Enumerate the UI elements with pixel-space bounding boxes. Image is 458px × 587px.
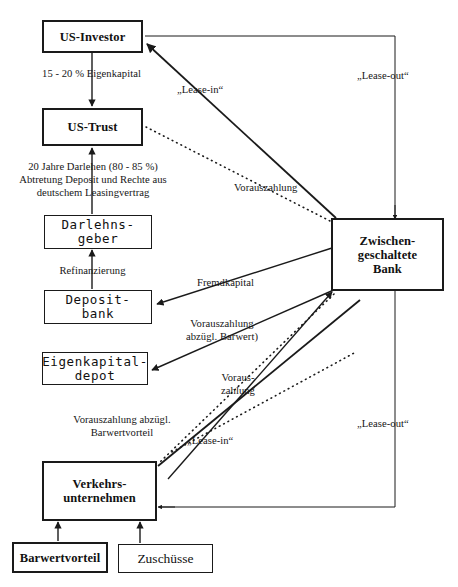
edge-label-vorauszahlung-abzugl-barwert: Vorauszahlungabzügl. Barwert) bbox=[166, 318, 278, 344]
node-zuschuesse[interactable]: Zuschüsse bbox=[118, 544, 213, 573]
edge-label-refinanzierung: Refinanzierung bbox=[44, 265, 141, 278]
node-us-trust[interactable]: US-Trust bbox=[42, 108, 143, 146]
node-us-trust-label: US-Trust bbox=[66, 120, 120, 134]
edge-label-voraus-zahlung: Voraus-zahlung bbox=[207, 372, 269, 398]
node-verkehrsunternehmen-label: Verkehrs-unternehmen bbox=[61, 477, 138, 505]
edge-label-darlehen-terms: 20 Jahre Darlehen (80 - 85 %)Abtretung D… bbox=[3, 160, 183, 200]
edge-label-vorauszahlung-top: Vorauszahlung bbox=[234, 182, 324, 195]
node-depositbank-label: Deposit-bank bbox=[63, 293, 132, 321]
node-eigenkapitaldepot-label: Eigenkapital-depot bbox=[40, 355, 150, 383]
node-depositbank[interactable]: Deposit-bank bbox=[44, 290, 152, 324]
edge-label-vorauszahlung-abzugl-barwertvorteil: Vorauszahlung abzügl.Barwertvorteil bbox=[52, 414, 192, 440]
node-eigenkapitaldepot[interactable]: Eigenkapital-depot bbox=[42, 352, 148, 385]
diagram-canvas: US-Investor US-Trust Darlehns-geber Depo… bbox=[0, 0, 458, 587]
edge-label-lease-out-top: „Lease-out“ bbox=[357, 70, 429, 83]
node-barwertvorteil-label: Barwertvorteil bbox=[18, 551, 103, 565]
node-verkehrsunternehmen[interactable]: Verkehrs-unternehmen bbox=[42, 461, 157, 521]
edge-bank-to-depositbank bbox=[157, 248, 332, 304]
edge-label-eigenkapital-pct: 15 - 20 % Eigenkapital bbox=[14, 68, 169, 81]
node-zwischengeschaltete-bank[interactable]: Zwischen-geschalteteBank bbox=[331, 218, 444, 291]
edge-label-fremdkapital: Fremdkapital bbox=[197, 277, 277, 290]
node-zwischengeschaltete-bank-label: Zwischen-geschalteteBank bbox=[356, 234, 419, 276]
node-us-investor-label: US-Investor bbox=[58, 30, 128, 44]
node-darlehnsgeber[interactable]: Darlehns-geber bbox=[44, 215, 152, 249]
node-zuschuesse-label: Zuschüsse bbox=[135, 551, 195, 566]
edge-label-lease-out-bottom: „Lease-out“ bbox=[357, 418, 429, 431]
node-barwertvorteil[interactable]: Barwertvorteil bbox=[12, 542, 108, 573]
edge-label-lease-in-bottom: „Lease-in“ bbox=[187, 435, 259, 448]
node-us-investor[interactable]: US-Investor bbox=[42, 20, 143, 53]
node-darlehnsgeber-label: Darlehns-geber bbox=[59, 218, 136, 246]
edge-label-lease-in-top: „Lease-in“ bbox=[177, 84, 247, 97]
